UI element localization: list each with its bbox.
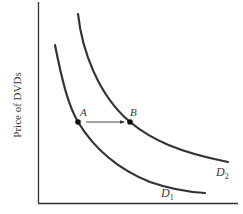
demand-curve-d1 bbox=[55, 45, 205, 193]
demand-curve-d2 bbox=[78, 14, 228, 162]
curve-label-d2: D2 bbox=[215, 165, 229, 181]
point-b-label: B bbox=[130, 106, 137, 118]
point-a bbox=[75, 119, 81, 125]
y-axis-label: Price of DVDs bbox=[11, 72, 23, 137]
point-b bbox=[127, 119, 133, 125]
demand-shift-chart: Price of DVDs A B D1 D2 bbox=[0, 0, 243, 214]
point-a-label: A bbox=[79, 106, 87, 118]
